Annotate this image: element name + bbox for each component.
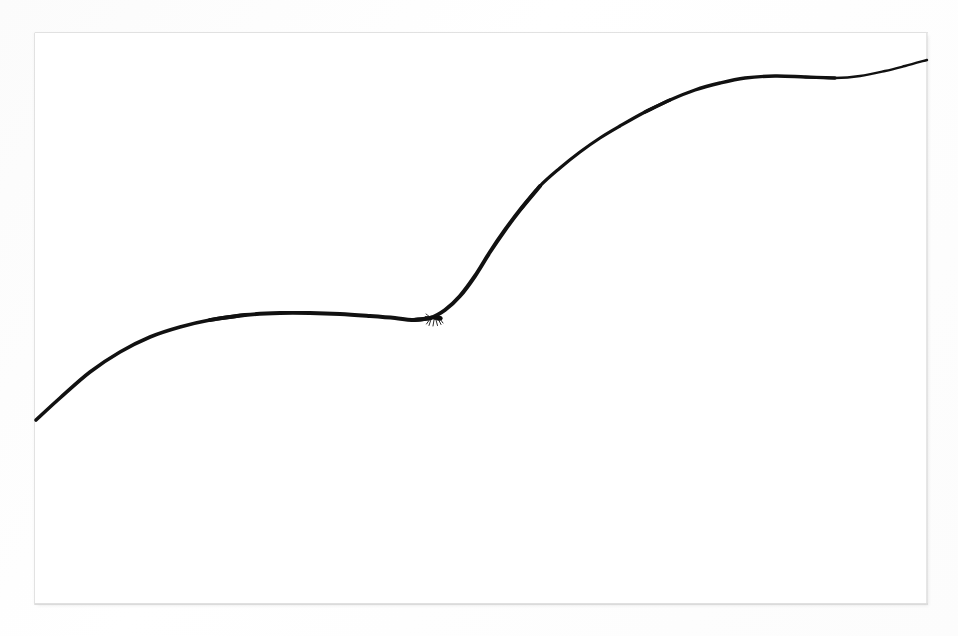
curve-segment-left-plateau (210, 313, 430, 320)
curve-segment-steep-rise (412, 186, 540, 320)
curve-segment-upper-bend (520, 100, 670, 210)
curve-segment-right-plateau (645, 76, 835, 112)
curve-segment-right-tail (805, 60, 927, 78)
screenshot-canvas (0, 0, 958, 636)
curve-segment-lower-rise (36, 315, 245, 420)
curve-plot (0, 0, 958, 636)
drawn-curve (36, 60, 927, 420)
